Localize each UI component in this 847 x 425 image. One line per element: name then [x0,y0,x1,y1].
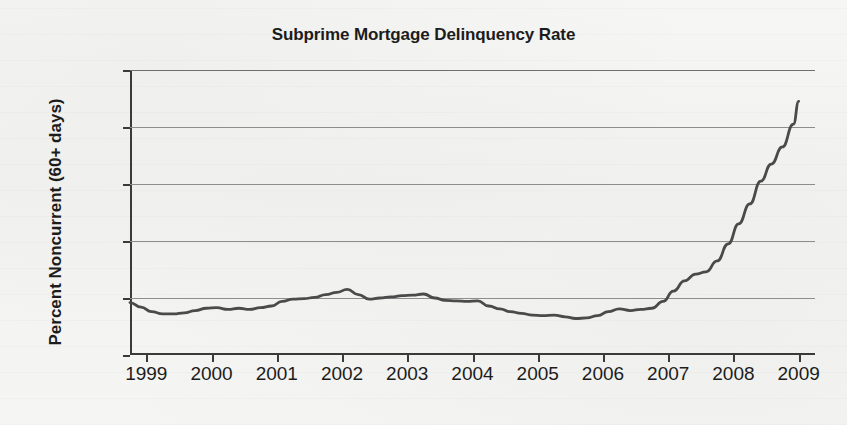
x-tick-label-2000: 2000 [177,363,247,385]
x-tick-label-2009: 2009 [764,363,834,385]
x-tick-mark-2004 [473,355,475,362]
x-tick-label-2002: 2002 [307,363,377,385]
x-tick-mark-2003 [407,355,409,362]
x-tick-mark-2000 [212,355,214,362]
x-tick-label-2004: 2004 [438,363,508,385]
x-tick-mark-2002 [342,355,344,362]
x-tick-label-1999: 1999 [111,363,181,385]
x-tick-mark-2009 [799,355,801,362]
chart-figure: Subprime Mortgage Delinquency Rate Perce… [0,0,847,425]
y-axis-title: Percent Noncurrent (60+ days) [46,72,66,372]
x-tick-mark-2007 [668,355,670,362]
x-tick-mark-1999 [146,355,148,362]
x-tick-mark-2005 [538,355,540,362]
plot-area: 0%10%20%30%40%50% [130,70,815,355]
x-tick-label-2003: 2003 [372,363,442,385]
y-tick-mark-30pct [123,184,130,186]
x-tick-label-2007: 2007 [633,363,703,385]
y-tick-mark-10pct [123,298,130,300]
delinquency-rate-line [130,101,799,318]
y-tick-mark-0pct [123,355,130,357]
x-tick-mark-2006 [603,355,605,362]
data-series-layer [130,70,815,355]
y-tick-mark-20pct [123,241,130,243]
y-tick-mark-50pct [123,70,130,72]
x-tick-mark-2001 [277,355,279,362]
y-tick-mark-40pct [123,127,130,129]
x-tick-label-2006: 2006 [568,363,638,385]
x-tick-mark-2008 [733,355,735,362]
x-tick-label-2001: 2001 [242,363,312,385]
chart-title: Subprime Mortgage Delinquency Rate [0,25,847,45]
x-tick-label-2008: 2008 [698,363,768,385]
x-tick-label-2005: 2005 [503,363,573,385]
